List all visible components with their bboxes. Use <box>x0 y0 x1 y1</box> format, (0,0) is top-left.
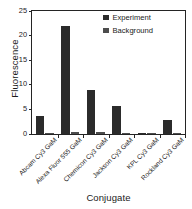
y-tick-label: 0 <box>23 129 27 139</box>
bar-background <box>96 132 105 134</box>
y-tick-mark <box>29 60 33 61</box>
bar-experiment <box>163 120 172 134</box>
x-axis-title: Conjugate <box>31 192 186 203</box>
legend-label: Background <box>113 26 154 35</box>
y-tick-label: 10 <box>19 79 27 89</box>
y-tick-mark <box>29 134 33 135</box>
legend-label: Experiment <box>113 13 151 22</box>
bar-experiment <box>112 106 121 134</box>
x-axis-tick-labels: Abcam Cy3 GaMAlexa Fluor 555 GaMChemicon… <box>31 136 186 190</box>
y-tick-label: 5 <box>23 104 27 114</box>
bar-experiment <box>61 26 70 134</box>
y-tick-mark <box>29 109 33 110</box>
bar-experiment <box>87 90 96 134</box>
bar-experiment <box>138 133 147 134</box>
chart-legend: ExperimentBackground <box>103 12 169 38</box>
legend-item: Background <box>103 25 169 36</box>
y-tick-mark <box>29 35 33 36</box>
bar-background <box>71 132 80 134</box>
bar-background <box>122 133 131 134</box>
bar-background <box>45 133 54 134</box>
y-tick-mark <box>29 11 33 12</box>
legend-swatch-icon <box>103 28 109 34</box>
fluorescence-bar-chart: Fluorescence 0510152025 Abcam Cy3 GaMAle… <box>0 0 192 209</box>
y-tick-label: 20 <box>19 30 27 40</box>
bar-experiment <box>36 116 45 134</box>
y-tick-label: 25 <box>19 6 27 16</box>
y-tick-label: 15 <box>19 55 27 65</box>
y-tick-mark <box>29 84 33 85</box>
bar-background <box>147 133 156 134</box>
legend-swatch-icon <box>103 15 109 21</box>
bar-background <box>173 133 182 134</box>
legend-item: Experiment <box>103 12 169 23</box>
